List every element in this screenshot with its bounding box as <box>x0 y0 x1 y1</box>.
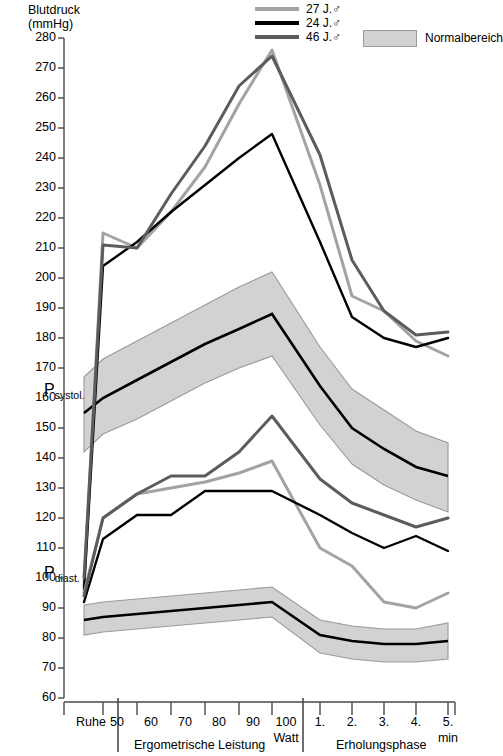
y-tick-label: 230 <box>26 180 56 194</box>
y-tick-label: 210 <box>26 240 56 254</box>
y-tick-label: 250 <box>26 120 56 134</box>
x-unit-min: min <box>424 731 472 745</box>
y-tick-label: 180 <box>26 330 56 344</box>
y-tick-label: 80 <box>26 630 56 644</box>
y-tick-label: 90 <box>26 600 56 614</box>
y-tick-label: 240 <box>26 150 56 164</box>
diastolic-normal-band <box>84 587 448 662</box>
x-tick-label-min-5.: 5. <box>424 715 472 729</box>
y-tick-label: 280 <box>26 30 56 44</box>
y-tick-label: 100 <box>26 570 56 584</box>
y-tick-label: 120 <box>26 510 56 524</box>
y-tick-label: 200 <box>26 270 56 284</box>
y-tick-label: 220 <box>26 210 56 224</box>
systolic-normal-band <box>84 272 448 512</box>
y-tick-label: 130 <box>26 480 56 494</box>
y-tick-label: 270 <box>26 60 56 74</box>
y-tick-label: 170 <box>26 360 56 374</box>
x-group-label-ergometrie: Ergometrische Leistung <box>134 738 265 752</box>
series-line-24-diastolisch <box>84 491 448 602</box>
y-tick-label: 70 <box>26 660 56 674</box>
y-tick-label: 110 <box>26 540 56 554</box>
y-tick-label: 160 <box>26 390 56 404</box>
x-group-label-erholung: Erholungsphase <box>336 738 426 752</box>
y-tick-label: 60 <box>26 690 56 704</box>
y-tick-label: 190 <box>26 300 56 314</box>
x-unit-watt: Watt <box>262 731 310 745</box>
y-tick-label: 140 <box>26 450 56 464</box>
y-tick-label: 150 <box>26 420 56 434</box>
y-tick-label: 260 <box>26 90 56 104</box>
